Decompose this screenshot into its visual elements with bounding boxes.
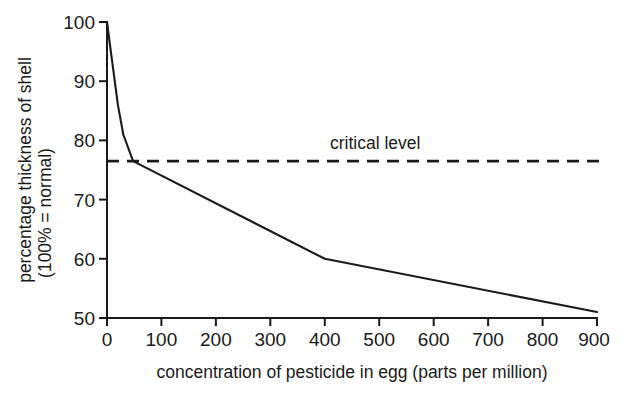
y-axis-ticks (99, 22, 107, 318)
y-axis-tick-labels: 100 90 80 70 60 50 (63, 12, 95, 329)
y-tick-label-50: 50 (74, 308, 95, 329)
shell-thickness-series (107, 22, 597, 312)
x-axis-tick-labels: 0 100 200 300 400 500 600 700 800 900 (102, 329, 610, 350)
x-tick-label-600: 600 (418, 329, 450, 350)
shell-thickness-line (107, 22, 597, 312)
x-tick-label-500: 500 (363, 329, 395, 350)
x-axis-ticks (107, 318, 597, 326)
x-axis-group: 0 100 200 300 400 500 600 700 800 900 co… (102, 318, 610, 382)
x-tick-label-400: 400 (309, 329, 341, 350)
y-tick-label-70: 70 (74, 190, 95, 211)
x-tick-label-300: 300 (254, 329, 286, 350)
y-axis-title-line1: percentage thickness of shell (15, 57, 35, 283)
x-axis-title: concentration of pesticide in egg (parts… (156, 362, 547, 382)
y-axis-title: percentage thickness of shell (100% = no… (15, 57, 55, 283)
x-tick-label-0: 0 (102, 329, 113, 350)
y-tick-label-80: 80 (74, 130, 95, 151)
y-axis-group: 100 90 80 70 60 50 percentage thickness … (15, 12, 107, 329)
x-tick-label-700: 700 (472, 329, 504, 350)
y-tick-label-60: 60 (74, 249, 95, 270)
y-tick-label-90: 90 (74, 71, 95, 92)
x-tick-label-100: 100 (146, 329, 178, 350)
x-tick-label-800: 800 (527, 329, 559, 350)
x-tick-label-900: 900 (578, 329, 610, 350)
chart-figure: 100 90 80 70 60 50 percentage thickness … (0, 0, 627, 398)
x-tick-label-200: 200 (200, 329, 232, 350)
y-axis-title-line2: (100% = normal) (35, 148, 55, 278)
critical-level-label: critical level (330, 133, 420, 153)
critical-level-annotation: critical level (107, 133, 600, 161)
chart-canvas: 100 90 80 70 60 50 percentage thickness … (0, 0, 627, 398)
y-tick-label-100: 100 (63, 12, 95, 33)
